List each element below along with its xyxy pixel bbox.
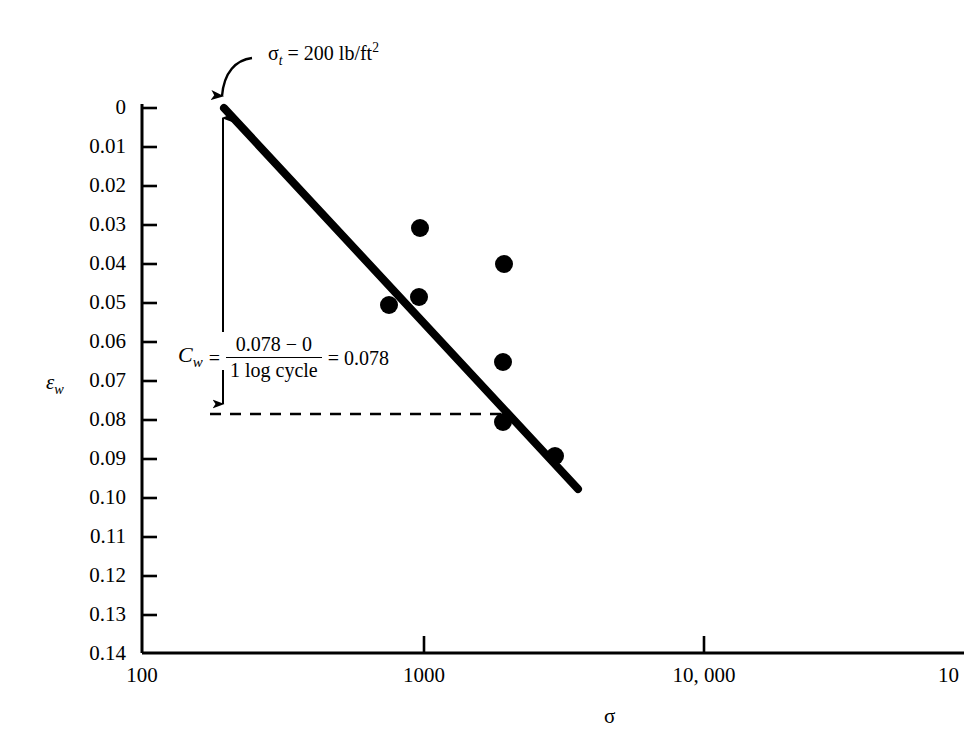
x-tick-label: 1000 (384, 665, 464, 686)
cw-subscript: w (193, 355, 203, 371)
chart-canvas (0, 0, 964, 751)
y-tick-label: 0.09 (46, 448, 126, 469)
y-tick-label: 0.12 (46, 565, 126, 586)
y-axis-title: εw (46, 372, 64, 396)
data-point (546, 447, 564, 465)
y-tick-label: 0.01 (46, 136, 126, 157)
cw-numerator: 0.078 − 0 (226, 332, 322, 358)
cw-equals: = (209, 348, 220, 368)
cw-annotation: Cw = 0.078 − 0 1 log cycle = 0.078 (178, 332, 389, 383)
x-tick-label: 100 (102, 665, 182, 686)
y-tick-label: 0.03 (46, 214, 126, 235)
chart-figure: 0 0.01 0.02 0.03 0.04 0.05 0.06 0.07 0.0… (0, 0, 964, 751)
x-tick-label: 10 (938, 665, 964, 686)
data-point (494, 413, 512, 431)
y-axis-ticks (142, 108, 157, 615)
y-tick-label: 0.06 (46, 331, 126, 352)
sigma-t-equals: = (288, 42, 299, 64)
sigma-t-annotation: σt = 200 lb/ft2 (268, 41, 379, 67)
cw-result: = 0.078 (328, 348, 389, 368)
cw-fraction: 0.078 − 0 1 log cycle (226, 332, 322, 383)
x-axis-title-symbol: σ (604, 704, 615, 728)
y-axis-title-subscript: w (54, 381, 64, 397)
x-axis-ticks (424, 636, 704, 653)
data-point (495, 255, 513, 273)
y-tick-label: 0 (46, 97, 126, 118)
trend-line (224, 108, 578, 489)
y-tick-label: 0.13 (46, 604, 126, 625)
sigma-t-symbol: σ (268, 42, 279, 64)
y-tick-label: 0.05 (46, 292, 126, 313)
sigma-t-subscript: t (279, 53, 283, 68)
y-tick-label: 0.04 (46, 253, 126, 274)
data-point (494, 353, 512, 371)
data-point (380, 296, 398, 314)
y-tick-label: 0.11 (46, 526, 126, 547)
sigma-t-units: lb/ft (339, 42, 372, 64)
sigma-t-units-exponent: 2 (372, 40, 379, 55)
y-tick-label: 0.02 (46, 175, 126, 196)
y-tick-label: 0.08 (46, 409, 126, 430)
sigma-t-value: 200 (304, 42, 334, 64)
x-axis-title: σ (604, 706, 615, 727)
y-tick-label: 0.10 (46, 487, 126, 508)
data-points (380, 219, 564, 465)
y-tick-label: 0.14 (46, 643, 126, 664)
cw-symbol: C (178, 342, 193, 367)
data-point (411, 219, 429, 237)
data-point (410, 288, 428, 306)
x-tick-label: 10, 000 (652, 665, 756, 686)
cw-denominator: 1 log cycle (226, 358, 322, 383)
sigma-t-callout-arrow (222, 58, 252, 96)
